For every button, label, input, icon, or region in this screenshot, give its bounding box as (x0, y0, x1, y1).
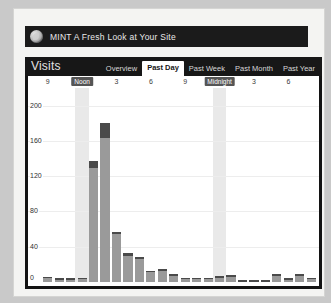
x-axis-tick: 3 (252, 77, 256, 86)
bar[interactable] (295, 274, 304, 282)
bar-cap (226, 275, 235, 277)
bar[interactable] (55, 278, 64, 282)
bar[interactable] (284, 278, 293, 282)
bar[interactable] (78, 278, 87, 282)
mint-title: MINT A Fresh Look at Your Site (50, 32, 176, 42)
bar-cap (100, 123, 109, 138)
bar-cap (55, 278, 64, 280)
bar-cap (238, 280, 247, 282)
y-axis-label: 40 (30, 243, 39, 251)
bar[interactable] (204, 278, 213, 282)
tab-past-week[interactable]: Past Week (184, 62, 230, 76)
bar-cap (192, 278, 201, 280)
bar[interactable] (123, 253, 132, 282)
y-axis-label: 120 (30, 172, 43, 180)
panel-tabbar: Visits OverviewPast DayPast WeekPast Mon… (25, 57, 322, 76)
page-paper: MINT A Fresh Look at Your Site Visits Ov… (14, 9, 324, 296)
y-axis-label: 80 (30, 207, 39, 215)
tab-past-day[interactable]: Past Day (142, 61, 184, 76)
bar-cap (158, 269, 167, 271)
bar[interactable] (272, 274, 281, 282)
bar-cap (284, 278, 293, 280)
bar[interactable] (66, 278, 75, 282)
bar-cap (261, 280, 270, 282)
bar-cap (204, 278, 213, 280)
x-axis-tick: Noon (71, 77, 93, 86)
x-axis-tick: 6 (286, 77, 290, 86)
y-axis-label: 200 (30, 102, 43, 110)
visits-chart: 9Noon369Midnight36 04080120160200 (25, 76, 322, 289)
x-axis-tick: Midnight (204, 77, 235, 86)
bar[interactable] (226, 275, 235, 282)
bar[interactable] (215, 276, 224, 282)
visits-panel: Visits OverviewPast DayPast WeekPast Mon… (25, 57, 322, 289)
tab-overview[interactable]: Overview (101, 62, 142, 76)
tab-past-year[interactable]: Past Year (278, 62, 320, 76)
bar[interactable] (89, 161, 98, 282)
screenshot-root: MINT A Fresh Look at Your Site Visits Ov… (0, 0, 331, 303)
bar[interactable] (181, 278, 190, 282)
bar-cap (78, 278, 87, 280)
mint-leaf-icon (30, 30, 43, 43)
chart-bars (28, 88, 319, 282)
x-axis-tick: 6 (149, 77, 153, 86)
bar-cap (135, 257, 144, 259)
bar[interactable] (169, 274, 178, 282)
bar-cap (295, 274, 304, 276)
bar[interactable] (158, 269, 167, 282)
bar[interactable] (146, 271, 155, 282)
bar-cap (169, 274, 178, 276)
y-axis-label: 160 (30, 137, 43, 145)
bar[interactable] (249, 280, 258, 282)
x-axis-tick: 3 (115, 77, 119, 86)
bar-cap (146, 271, 155, 273)
bar-cap (89, 161, 98, 168)
bar-cap (215, 276, 224, 278)
bar-cap (43, 277, 52, 279)
bar[interactable] (112, 232, 121, 282)
bar-cap (249, 280, 258, 282)
chart-plot-area: 04080120160200 (28, 88, 319, 282)
bar-cap (123, 253, 132, 256)
bar[interactable] (307, 278, 316, 282)
bar[interactable] (238, 280, 247, 282)
x-axis-tick: 9 (46, 77, 50, 86)
bar-cap (181, 278, 190, 280)
bar[interactable] (192, 278, 201, 282)
y-axis-label: 0 (30, 274, 35, 282)
tab-list: OverviewPast DayPast WeekPast MonthPast … (101, 61, 320, 76)
x-axis-tick: 9 (183, 77, 187, 86)
bar-cap (112, 232, 121, 235)
mint-header-bar: MINT A Fresh Look at Your Site (25, 26, 308, 47)
chart-x-axis-top: 9Noon369Midnight36 (28, 76, 319, 88)
bar-cap (307, 278, 316, 280)
tab-past-month[interactable]: Past Month (230, 62, 278, 76)
bar[interactable] (261, 280, 270, 282)
bar[interactable] (43, 277, 52, 282)
bar[interactable] (100, 123, 109, 282)
panel-title: Visits (31, 59, 61, 73)
bar-cap (272, 274, 281, 276)
bar-cap (66, 278, 75, 280)
bar[interactable] (135, 257, 144, 282)
